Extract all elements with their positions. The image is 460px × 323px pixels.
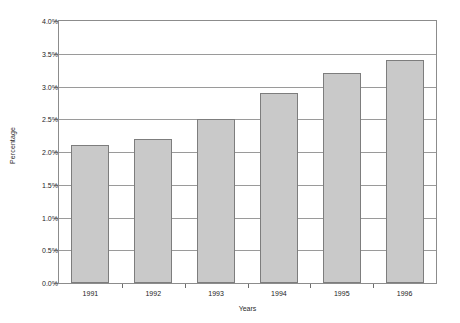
y-tick-label: 1.0%	[10, 214, 58, 221]
x-tick-label: 1992	[145, 290, 161, 297]
bar-rect[interactable]	[323, 73, 361, 283]
x-tick-label: 1994	[271, 290, 287, 297]
bar-rect[interactable]	[386, 60, 424, 283]
bar-rect[interactable]	[197, 119, 235, 283]
bar-rect[interactable]	[134, 139, 172, 283]
y-tick-label: 0.0%	[10, 280, 58, 287]
x-tick-mark	[310, 284, 311, 288]
y-tick-label: 1.5%	[10, 181, 58, 188]
x-tick-mark	[248, 284, 249, 288]
y-tick-label: 2.5%	[10, 116, 58, 123]
bar-1993[interactable]	[185, 21, 248, 283]
y-tick-label: 4.0%	[10, 18, 58, 25]
y-tick-label: 3.0%	[10, 83, 58, 90]
x-tick-label: 1991	[83, 290, 99, 297]
x-tick-mark	[373, 284, 374, 288]
y-tick-label: 2.0%	[10, 149, 58, 156]
x-axis-ticks	[59, 284, 436, 289]
y-tick-label: 3.5%	[10, 50, 58, 57]
x-axis-title: Years	[58, 305, 437, 312]
x-tick-mark	[185, 284, 186, 288]
x-tick-label: 1995	[334, 290, 350, 297]
x-tick-label: 1996	[397, 290, 413, 297]
bar-rect[interactable]	[71, 145, 109, 283]
x-tick-label: 1993	[208, 290, 224, 297]
bar-1995[interactable]	[310, 21, 373, 283]
bar-rect[interactable]	[260, 93, 298, 283]
bar-chart: Percentage 0.0%0.5%1.0%1.5%2.0%2.5%3.0%3…	[0, 0, 460, 323]
x-axis-labels: 199119921993199419951996	[59, 290, 436, 302]
bar-1994[interactable]	[248, 21, 311, 283]
y-tick-label: 0.5%	[10, 247, 58, 254]
bars-layer	[59, 21, 436, 283]
bar-1991[interactable]	[59, 21, 122, 283]
y-axis-ticks: 0.0%0.5%1.0%1.5%2.0%2.5%3.0%3.5%4.0%	[0, 20, 58, 284]
bar-1992[interactable]	[122, 21, 185, 283]
x-tick-mark	[122, 284, 123, 288]
bar-1996[interactable]	[373, 21, 436, 283]
